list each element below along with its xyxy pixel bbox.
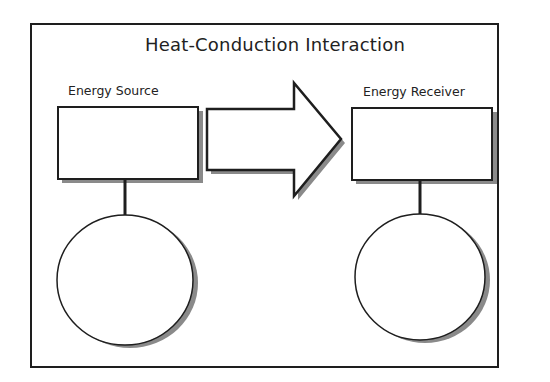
- arrow-body: [207, 83, 341, 196]
- energy-source-box[interactable]: [58, 107, 203, 183]
- diagram-canvas: [0, 0, 550, 382]
- energy-receiver-circle-body: [355, 214, 485, 340]
- energy-source-circle[interactable]: [57, 215, 198, 348]
- energy-source-box-body: [58, 107, 198, 179]
- energy-receiver-circle[interactable]: [355, 214, 490, 343]
- energy-receiver-box-body: [352, 108, 492, 180]
- right-arrow-icon: [207, 83, 345, 200]
- energy-source-circle-body: [57, 215, 193, 345]
- energy-receiver-box[interactable]: [352, 108, 497, 184]
